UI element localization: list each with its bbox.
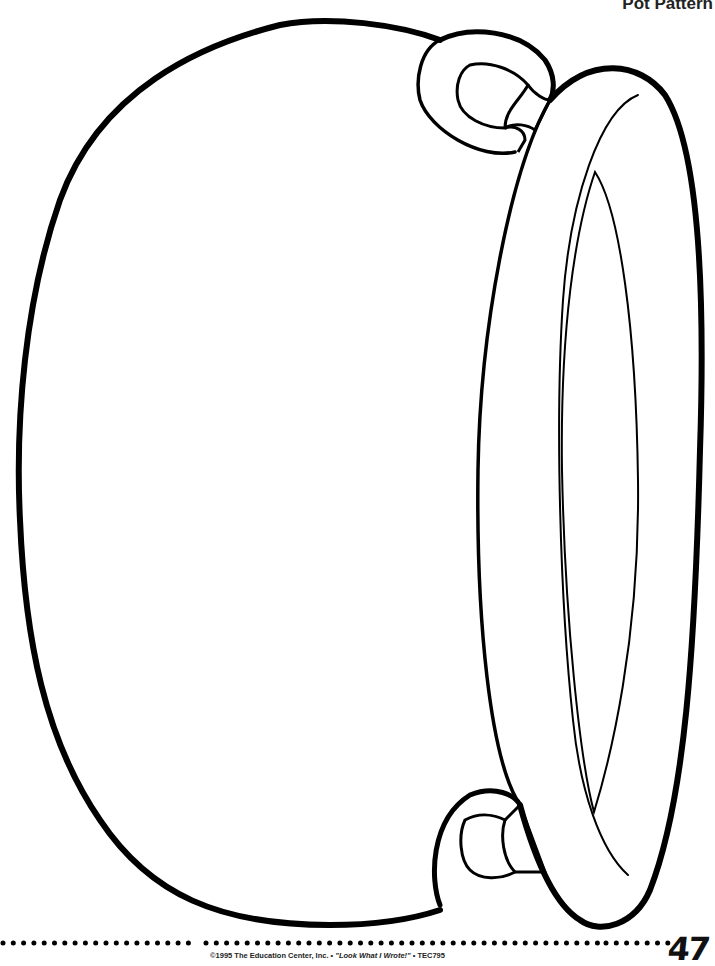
page-number: 47 bbox=[666, 930, 711, 966]
bottom-handle bbox=[434, 791, 545, 905]
product-code: • TEC795 bbox=[411, 951, 445, 960]
copyright-text: ©1995 The Education Center, Inc. • bbox=[210, 951, 335, 960]
pot-body-outline bbox=[19, 21, 440, 925]
footer-credit: ©1995 The Education Center, Inc. • "Look… bbox=[0, 951, 715, 960]
pot-rim-outer bbox=[520, 68, 702, 927]
pot-illustration bbox=[0, 0, 715, 966]
pot-rim-inner bbox=[559, 95, 638, 875]
book-title: "Look What I Wrote!" bbox=[335, 951, 410, 960]
pot-rim-front bbox=[478, 100, 550, 805]
